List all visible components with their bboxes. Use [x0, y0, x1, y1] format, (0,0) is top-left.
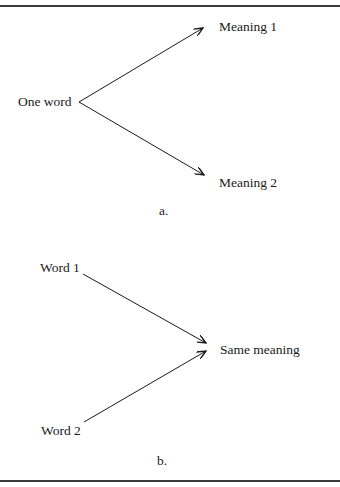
word-2-label: Word 2	[41, 424, 81, 438]
same-meaning-label: Same meaning	[220, 343, 300, 357]
arrow-one-word-to-meaning-1	[79, 28, 203, 102]
panel-b-caption: b.	[157, 454, 167, 468]
one-word-label: One word	[18, 95, 72, 109]
arrow-word-1-to-same-meaning	[83, 274, 206, 343]
meaning-2-label: Meaning 2	[219, 176, 277, 190]
arrows-layer	[0, 0, 340, 487]
arrow-word-2-to-same-meaning	[84, 351, 206, 422]
arrow-one-word-to-meaning-2	[79, 102, 204, 175]
panel-a-caption: a.	[159, 204, 168, 218]
word-1-label: Word 1	[40, 261, 80, 275]
meaning-1-label: Meaning 1	[219, 20, 277, 34]
bottom-rule	[0, 480, 340, 482]
